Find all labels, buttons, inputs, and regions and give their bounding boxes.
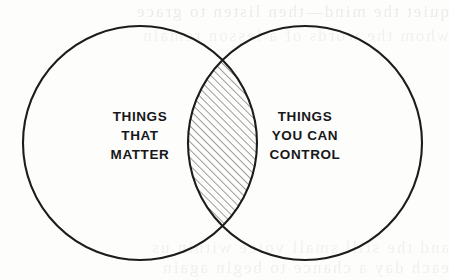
venn-graphic: [0, 0, 449, 280]
venn-diagram-page: quiet the mind—then listen to grace whom…: [0, 0, 449, 280]
left-label-line-1: THINGS: [80, 107, 200, 126]
right-label-line-2: YOU CAN: [245, 126, 365, 145]
right-label-line-3: CONTROL: [245, 145, 365, 164]
right-label-line-1: THINGS: [245, 107, 365, 126]
left-label-line-2: THAT: [80, 126, 200, 145]
left-label-line-3: MATTER: [80, 145, 200, 164]
right-circle-label: THINGS YOU CAN CONTROL: [245, 107, 365, 164]
left-circle-label: THINGS THAT MATTER: [80, 107, 200, 164]
